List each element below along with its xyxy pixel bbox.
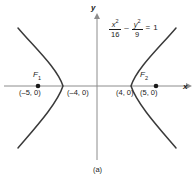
vertex-left-coords: (–4, 0) [67,89,89,97]
equation-term-2-exponent: 2 [138,18,141,24]
focus-right-coords: (5, 0) [140,89,158,97]
equation-term-1-numerator: x2 [110,17,121,29]
focus-right-subscript: 2 [145,75,148,81]
hyperbola-figure: y x F1 F2 (–5, 0) (–4, 0) (4, 0) (5, 0) … [0,0,195,184]
figure-caption: (a) [0,165,195,174]
x-axis-label: x [183,83,187,91]
equation-term-1: x2 16 [109,17,121,39]
equation-equals-sign: = [146,23,151,32]
equation-term-2: y2 9 [132,17,143,39]
vertex-right-coords: (4, 0) [116,89,134,97]
equation-term-2-denominator: 9 [133,30,141,39]
equation-term-1-denominator: 16 [109,30,121,39]
equation-term-2-numerator: y2 [132,17,143,29]
focus-left-subscript: 1 [38,75,41,81]
y-axis-arrow [94,13,100,19]
equation-operator: – [124,23,128,32]
focus-left-label: F1 [33,71,41,81]
equation-right-hand-side: 1 [153,23,157,32]
hyperbola-equation: x2 16 – y2 9 = 1 [108,17,158,39]
y-axis-label: y [91,4,95,12]
focus-right-label: F2 [140,71,148,81]
focus-left-coords: (–5, 0) [19,89,41,97]
equation-term-1-exponent: 2 [116,18,119,24]
